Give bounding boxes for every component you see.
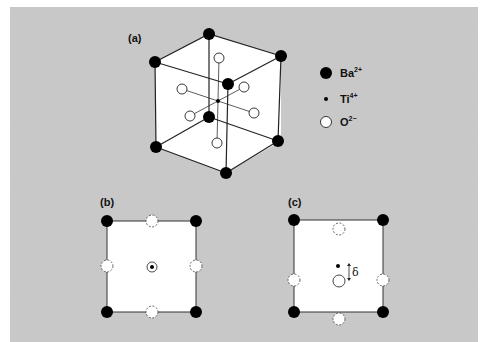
panel-b-titanium xyxy=(150,265,154,269)
titanium-ion xyxy=(216,99,220,103)
displacement-delta-label: δ xyxy=(352,266,359,279)
panel-b-label: (b) xyxy=(100,196,114,208)
legend-o-charge: 2− xyxy=(349,115,357,122)
panel-c-titanium xyxy=(336,264,340,268)
legend-ba-label: Ba xyxy=(340,67,355,79)
panel-a-label: (a) xyxy=(128,32,142,44)
ti-marker-icon xyxy=(324,97,328,101)
legend-ti-charge: 4+ xyxy=(350,92,358,99)
panel-c-oxygen-center xyxy=(333,275,345,287)
panel-c-label: (c) xyxy=(288,196,302,208)
legend-ti-label: Ti xyxy=(340,93,350,105)
perovskite-diagram: (a) xyxy=(0,0,486,342)
o-marker-icon xyxy=(321,117,332,128)
ba-marker-icon xyxy=(320,67,332,79)
legend-ba-charge: 2+ xyxy=(354,66,362,73)
